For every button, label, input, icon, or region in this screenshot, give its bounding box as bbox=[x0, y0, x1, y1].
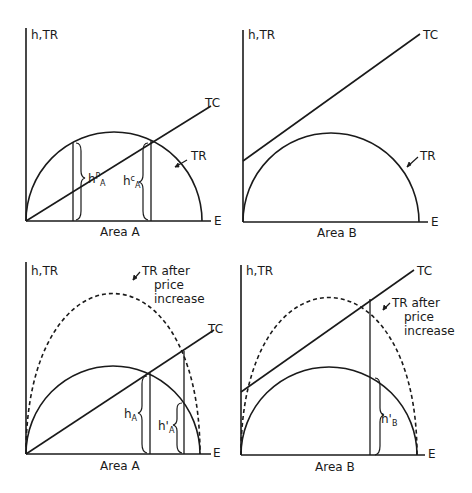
panel-caption: Area B bbox=[315, 461, 355, 473]
panel-top-left bbox=[26, 28, 211, 221]
h-c-a-label: hcA bbox=[123, 175, 141, 187]
h-p-a-label: hPA bbox=[88, 173, 105, 185]
tc-line bbox=[241, 270, 414, 392]
x-axis-label: E bbox=[431, 216, 439, 228]
tc-label: TC bbox=[205, 97, 220, 109]
x-axis-label: E bbox=[428, 448, 436, 460]
y-axis-label: h,TR bbox=[248, 29, 275, 41]
h-prime-b-label: h'B bbox=[381, 413, 397, 425]
panel-caption: Area A bbox=[100, 226, 140, 238]
tc-label: TC bbox=[417, 265, 432, 277]
tr-label: TR bbox=[191, 150, 207, 162]
panel-caption: Area A bbox=[100, 460, 140, 472]
tc-line bbox=[243, 34, 420, 161]
tc-label: TC bbox=[423, 29, 438, 41]
y-axis-label: h,TR bbox=[31, 265, 58, 277]
h-prime-a-label: h'A bbox=[158, 420, 174, 432]
panel-bottom-right bbox=[241, 265, 425, 455]
panel-top-right bbox=[243, 30, 428, 222]
tr-label: TR bbox=[420, 150, 436, 162]
tc-line bbox=[26, 106, 211, 221]
tr-curve bbox=[26, 366, 200, 454]
tr-curve bbox=[26, 132, 202, 221]
y-axis-label: h,TR bbox=[246, 265, 273, 277]
y-axis-label: h,TR bbox=[31, 29, 58, 41]
diagram-canvas bbox=[0, 0, 472, 493]
tr-after-label: TR after price increase bbox=[142, 264, 205, 306]
x-axis-label: E bbox=[214, 215, 222, 227]
tc-label: TC bbox=[208, 323, 223, 335]
ha-brace bbox=[138, 376, 147, 453]
tr-after-curve bbox=[241, 298, 417, 456]
hp-brace bbox=[76, 143, 85, 220]
panel-caption: Area B bbox=[317, 227, 357, 239]
tc-line bbox=[26, 330, 214, 454]
tr-after-label: TR after price increase bbox=[392, 296, 455, 338]
tr-curve bbox=[241, 367, 417, 455]
tr-curve bbox=[243, 133, 419, 222]
h-a-label: hA bbox=[124, 408, 137, 420]
x-axis-label: E bbox=[213, 447, 221, 459]
